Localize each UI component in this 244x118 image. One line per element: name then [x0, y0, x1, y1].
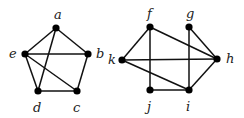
- vertex-d: [34, 87, 41, 94]
- vertex-g: [185, 23, 192, 30]
- vertex-label-g: g: [186, 6, 194, 21]
- vertex-a: [52, 24, 59, 31]
- edge-e-c: [25, 54, 77, 91]
- edge-k-h: [122, 59, 217, 60]
- edge-e-d: [25, 54, 38, 91]
- vertex-b: [84, 50, 91, 57]
- vertex-i: [185, 86, 192, 93]
- vertex-label-j: j: [144, 99, 151, 114]
- vertex-label-b: b: [96, 46, 104, 61]
- vertex-j: [146, 86, 153, 93]
- edge-a-d: [38, 28, 56, 91]
- vertex-h: [213, 55, 220, 62]
- edge-a-e: [25, 28, 56, 54]
- vertex-label-f: f: [146, 6, 154, 21]
- edge-i-h: [189, 59, 217, 90]
- vertex-k: [118, 56, 125, 63]
- edge-a-b: [56, 28, 88, 54]
- vertex-label-i: i: [186, 99, 190, 114]
- vertex-label-h: h: [226, 51, 234, 66]
- edge-f-h: [150, 27, 217, 59]
- vertex-label-d: d: [33, 100, 41, 115]
- edge-b-c: [77, 54, 88, 91]
- edge-g-h: [189, 27, 217, 59]
- edge-k-i: [122, 60, 189, 90]
- vertex-c: [73, 87, 80, 94]
- vertex-f: [146, 23, 153, 30]
- graph-diagram: abcdefghijk: [0, 0, 244, 118]
- vertex-label-k: k: [108, 52, 116, 67]
- vertex-label-a: a: [54, 7, 62, 22]
- vertex-e: [21, 50, 28, 57]
- vertex-label-e: e: [9, 46, 17, 61]
- vertex-label-c: c: [73, 100, 81, 115]
- edge-f-k: [122, 27, 150, 60]
